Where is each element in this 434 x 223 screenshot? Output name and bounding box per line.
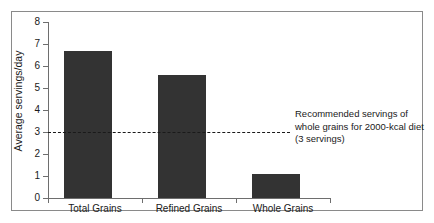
y-tick-mark-4 — [43, 110, 48, 111]
x-tick-mark-3 — [330, 198, 331, 203]
annotation-line-2: whole grains for 2000-kcal diet — [295, 121, 421, 134]
y-axis-line — [48, 22, 49, 199]
y-tick-label-4: 4 — [26, 105, 40, 115]
y-tick-label-2: 2 — [26, 149, 40, 159]
y-tick-label-0: 0 — [26, 193, 40, 203]
y-tick-mark-5 — [43, 88, 48, 89]
plot-area: 8 7 6 5 4 3 2 1 0 Average servings/day — [0, 0, 434, 223]
y-tick-label-6: 6 — [26, 61, 40, 71]
annotation-line-1: Recommended servings of — [295, 108, 421, 121]
chart-figure: 8 7 6 5 4 3 2 1 0 Average servings/day — [0, 0, 434, 223]
bar-total-grains — [64, 51, 112, 198]
y-tick-mark-7 — [43, 44, 48, 45]
annotation-line-3: (3 servings) — [295, 133, 421, 146]
x-tick-label-total-grains: Total Grains — [48, 203, 142, 215]
reference-line-annotation: Recommended servings of whole grains for… — [295, 108, 421, 146]
y-tick-label-5: 5 — [26, 83, 40, 93]
recommended-servings-reference-line — [48, 132, 290, 133]
y-tick-mark-2 — [43, 154, 48, 155]
x-tick-label-refined-grains: Refined Grains — [142, 203, 236, 215]
y-tick-label-3: 3 — [26, 127, 40, 137]
x-tick-label-whole-grains: Whole Grains — [236, 203, 330, 215]
y-tick-mark-8 — [43, 22, 48, 23]
x-axis-line — [48, 198, 331, 199]
bar-refined-grains — [158, 75, 206, 198]
y-axis-title: Average servings/day — [12, 31, 24, 171]
y-tick-label-1: 1 — [26, 171, 40, 181]
y-tick-mark-1 — [43, 176, 48, 177]
bar-whole-grains — [252, 174, 300, 198]
y-tick-label-7: 7 — [26, 39, 40, 49]
y-tick-mark-6 — [43, 66, 48, 67]
y-tick-label-8: 8 — [26, 17, 40, 27]
